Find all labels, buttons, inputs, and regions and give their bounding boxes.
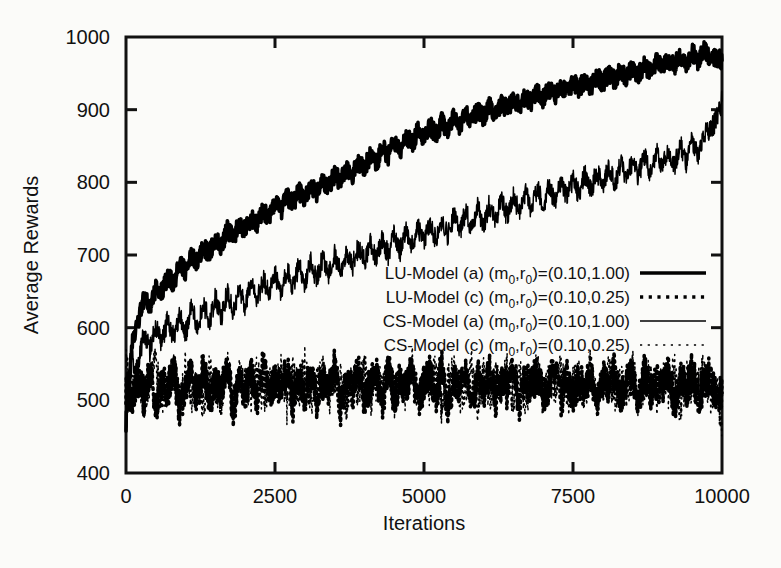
y-tick-label: 700 — [77, 244, 110, 266]
y-tick-label: 800 — [77, 171, 110, 193]
x-tick-label: 10000 — [694, 485, 750, 507]
x-tick-label: 5000 — [402, 485, 447, 507]
x-tick-label: 7500 — [551, 485, 596, 507]
y-tick-label: 600 — [77, 317, 110, 339]
x-tick-label: 0 — [120, 485, 131, 507]
y-tick-label: 1000 — [66, 26, 111, 48]
x-tick-label: 2500 — [253, 485, 298, 507]
y-tick-label: 400 — [77, 462, 110, 484]
y-tick-label: 900 — [77, 99, 110, 121]
chart-canvas: 4005006007008009001000 02500500075001000… — [0, 0, 781, 568]
y-tick-label: 500 — [77, 389, 110, 411]
x-axis-label: Iterations — [383, 512, 465, 534]
figure-background — [0, 0, 781, 568]
y-axis-label: Average Rewards — [20, 176, 42, 335]
chart-figure: 4005006007008009001000 02500500075001000… — [0, 0, 781, 568]
